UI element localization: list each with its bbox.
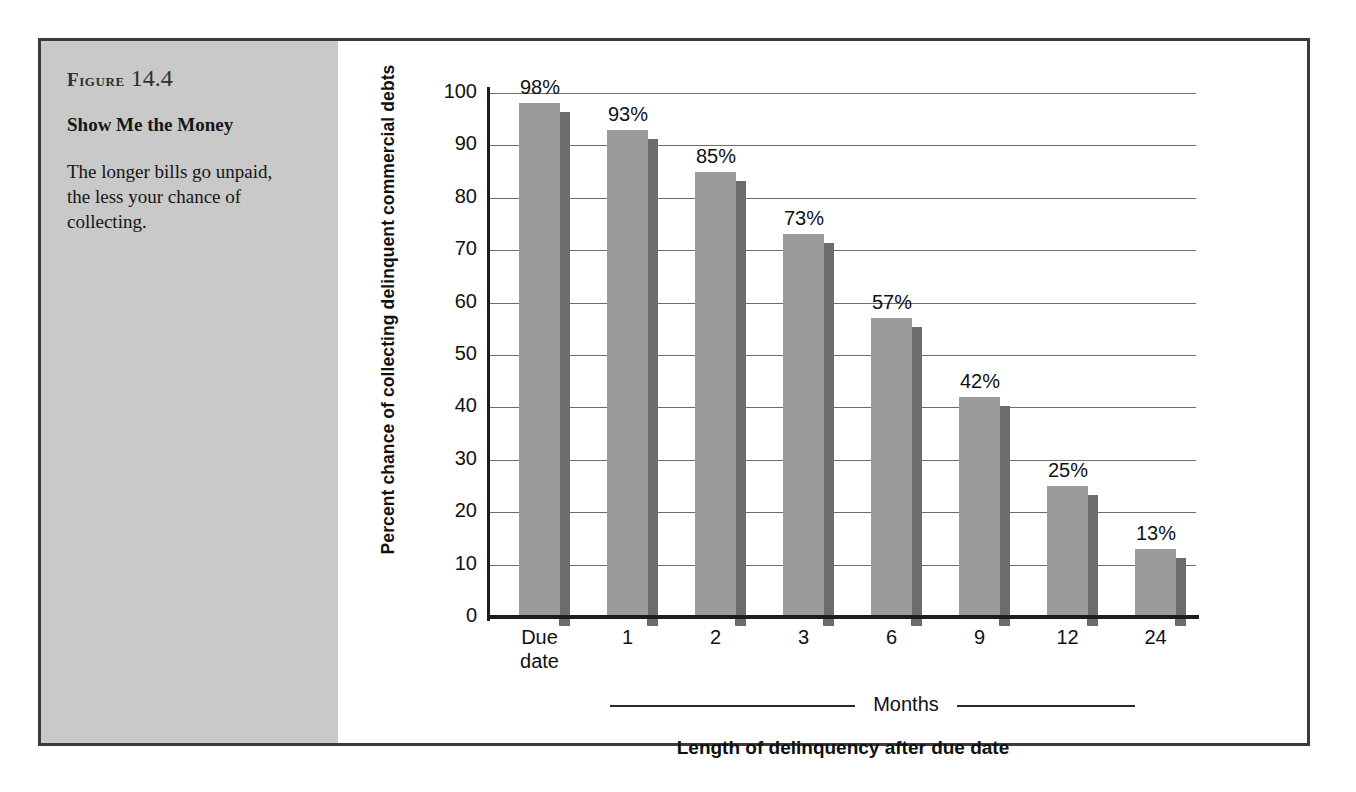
bar-shadow	[559, 112, 570, 626]
bar-value-label: 57%	[861, 291, 923, 314]
x-axis-tick-label: Duedate	[495, 625, 585, 674]
bar-front-face	[1135, 549, 1176, 617]
bar-shadow	[1087, 495, 1098, 626]
gridline	[487, 407, 1196, 408]
bar: 42%	[959, 387, 1011, 617]
x-axis-tick-label: 3	[759, 625, 849, 649]
y-axis-tick-label: 60	[427, 290, 477, 313]
y-axis-tick-label: 100	[427, 80, 477, 103]
x-axis-tick-label: 24	[1111, 625, 1201, 649]
months-bracket-label: Months	[855, 693, 957, 716]
bar-front-face	[959, 397, 1000, 617]
gridline	[487, 355, 1196, 356]
chart-panel: Percent chance of collecting delinquent …	[338, 41, 1307, 743]
x-axis-title: Length of delinquency after due date	[487, 737, 1199, 759]
gridline	[487, 303, 1196, 304]
bar: 98%	[519, 93, 571, 617]
x-axis-tick-label: 1	[583, 625, 673, 649]
figure-description: The longer bills go unpaid, the less you…	[67, 159, 285, 234]
bar-front-face	[695, 172, 736, 617]
bar-front-face	[871, 318, 912, 617]
figure-number-value: 14.4	[131, 65, 173, 91]
figure-caption-panel: Figure 14.4 Show Me the Money The longer…	[41, 41, 338, 743]
y-axis-tick-label: 90	[427, 132, 477, 155]
y-axis-tick-label: 30	[427, 447, 477, 470]
x-axis-line	[487, 615, 1199, 619]
bar-front-face	[783, 234, 824, 617]
gridline	[487, 93, 1196, 94]
gridline	[487, 198, 1196, 199]
bar-value-label: 93%	[597, 103, 659, 126]
bar-value-label: 73%	[773, 207, 835, 230]
y-axis-tick-label: 10	[427, 552, 477, 575]
bar-value-label: 98%	[509, 76, 571, 99]
gridline	[487, 145, 1196, 146]
bar: 13%	[1135, 539, 1187, 617]
bar-value-label: 85%	[685, 145, 747, 168]
bar-shadow	[999, 406, 1010, 626]
y-axis-tick-label: 80	[427, 185, 477, 208]
bar: 85%	[695, 162, 747, 617]
months-bracket: Months	[487, 693, 1199, 719]
y-axis-tick-labels: 0102030405060708090100	[417, 93, 477, 617]
bar: 73%	[783, 224, 835, 617]
y-axis-title: Percent chance of collecting delinquent …	[378, 60, 399, 560]
bar-front-face	[519, 103, 560, 617]
bar-value-label: 42%	[949, 370, 1011, 393]
bar: 57%	[871, 308, 923, 617]
x-axis-tick-label: 12	[1023, 625, 1113, 649]
figure-frame: Figure 14.4 Show Me the Money The longer…	[38, 38, 1310, 746]
bar-value-label: 13%	[1125, 522, 1187, 545]
figure-number-word: Figure	[67, 69, 125, 90]
plot-area: 98%93%85%73%57%42%25%13%	[487, 93, 1196, 617]
bar-shadow	[735, 181, 746, 626]
bar-value-label: 25%	[1037, 459, 1099, 482]
bar-shadow	[823, 243, 834, 626]
months-bracket-rule-left	[610, 705, 855, 707]
figure-number: Figure 14.4	[67, 65, 312, 92]
months-bracket-rule-right	[957, 705, 1135, 707]
x-axis-tick-labels: Duedate123691224	[487, 625, 1199, 685]
page-root: Figure 14.4 Show Me the Money The longer…	[0, 0, 1356, 792]
y-axis-tick-label: 0	[427, 604, 477, 627]
bar-front-face	[607, 130, 648, 617]
bar-front-face	[1047, 486, 1088, 617]
y-axis-tick-label: 70	[427, 237, 477, 260]
y-axis-line	[487, 87, 490, 621]
x-axis-tick-label: 2	[671, 625, 761, 649]
bar-shadow	[647, 139, 658, 626]
x-axis-tick-label: 9	[935, 625, 1025, 649]
y-axis-tick-label: 20	[427, 499, 477, 522]
gridline	[487, 250, 1196, 251]
x-axis-tick-label: 6	[847, 625, 937, 649]
y-axis-tick-label: 40	[427, 394, 477, 417]
bar: 93%	[607, 120, 659, 617]
y-axis-tick-label: 50	[427, 342, 477, 365]
bar-shadow	[911, 327, 922, 626]
bar: 25%	[1047, 476, 1099, 617]
figure-headline: Show Me the Money	[67, 114, 312, 137]
